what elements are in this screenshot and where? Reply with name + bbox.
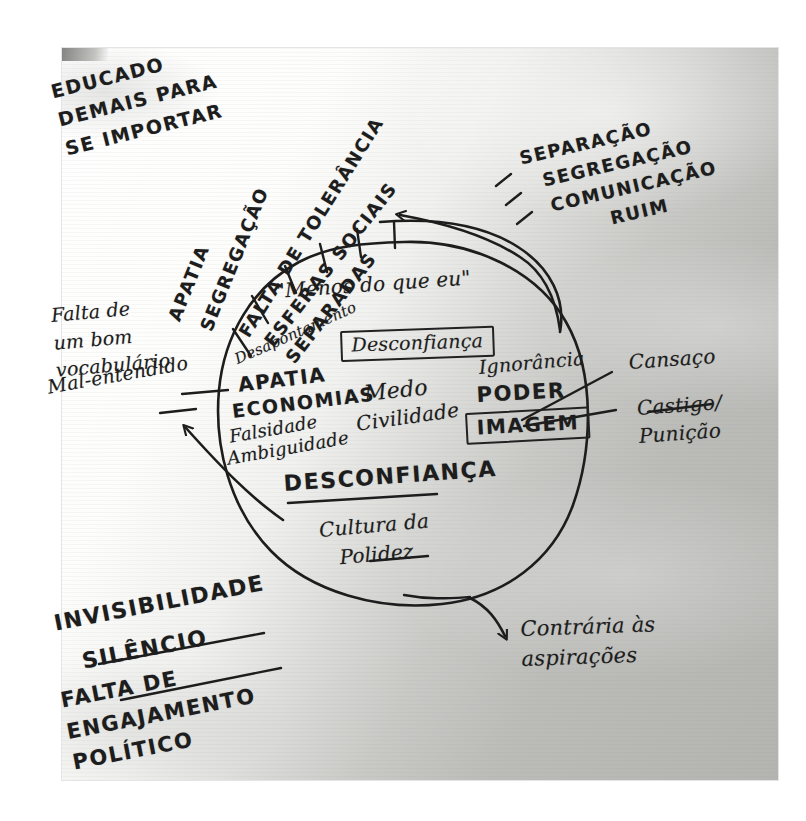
screenshot-canvas: EDUCADO DEMAIS PARA SE IMPORTAR APATIA S…	[0, 0, 806, 821]
arrow-to-aspiracoes	[470, 598, 505, 636]
arrow-to-aspiracoes-tail	[404, 595, 470, 598]
note-castigo-punicao: Castigo/ Punição	[636, 388, 725, 450]
connector-vocabulario	[160, 409, 196, 413]
boxed-imagem: IMAGEM	[465, 406, 591, 444]
inner-label-poder: PODER	[476, 379, 566, 406]
boxed-desconfianca: Desconfiança	[340, 326, 495, 362]
underline-desconfianca-caps	[288, 494, 437, 503]
note-contraria-aspiracoes: Contrária às aspirações	[520, 609, 657, 675]
connector-mal-entendido	[182, 390, 228, 394]
bullet-dashes	[496, 174, 532, 224]
inner-label-cultura-polidez: Cultura da Polidez	[318, 506, 433, 573]
